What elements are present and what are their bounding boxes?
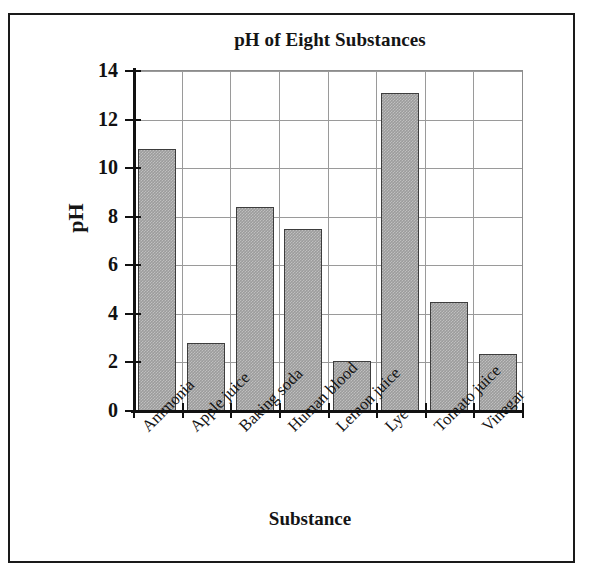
gridline-vertical	[182, 71, 183, 411]
y-tick-label: 12	[78, 109, 118, 129]
bar	[381, 93, 419, 411]
gridline-vertical	[473, 71, 474, 411]
gridline-vertical	[425, 71, 426, 411]
chart-title: pH of Eight Substances	[150, 29, 510, 51]
y-tick-mark	[125, 216, 141, 218]
gridline-vertical	[328, 71, 329, 411]
y-tick-label: 4	[78, 303, 118, 323]
gridline-vertical	[376, 71, 377, 411]
y-tick-label: 6	[78, 254, 118, 274]
chart-figure: pH of Eight Substances 02468101214 Ammon…	[0, 0, 598, 579]
x-axis-title: Substance	[180, 508, 440, 530]
y-tick-label: 2	[78, 351, 118, 371]
x-tick-mark	[425, 403, 427, 418]
y-tick-mark	[125, 313, 141, 315]
x-tick-mark	[133, 403, 135, 418]
gridline-vertical	[279, 71, 280, 411]
y-tick-label: 0	[78, 400, 118, 420]
bar	[138, 149, 176, 411]
y-tick-mark	[125, 167, 141, 169]
gridline-vertical	[230, 71, 231, 411]
y-axis-title: pH	[63, 188, 89, 248]
y-tick-label: 10	[78, 157, 118, 177]
y-tick-mark	[125, 361, 141, 363]
plot-area	[133, 70, 523, 411]
y-tick-mark	[125, 119, 141, 121]
y-tick-mark	[125, 264, 141, 266]
y-tick-label: 14	[78, 60, 118, 80]
y-tick-mark	[125, 70, 141, 72]
